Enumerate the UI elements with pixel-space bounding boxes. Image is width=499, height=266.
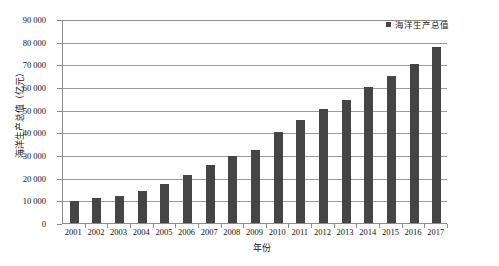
y-axis-tick-label: 80 000 <box>0 39 46 48</box>
bar-slot <box>380 20 403 223</box>
bar-2007[interactable] <box>206 165 215 223</box>
bar-2015[interactable] <box>387 76 396 223</box>
bar-2012[interactable] <box>319 109 328 223</box>
y-axis-tick-label: 30 000 <box>0 152 46 161</box>
x-axis-title: 年份 <box>0 241 499 254</box>
bar-slot <box>86 20 109 223</box>
y-axis-tick-label: 90 000 <box>0 16 46 25</box>
legend-square-marker-icon <box>386 22 391 27</box>
bar-slot <box>357 20 380 223</box>
bar-2017[interactable] <box>432 47 441 223</box>
bar-slot <box>312 20 335 223</box>
bar-2002[interactable] <box>92 198 101 223</box>
chart-legend: 海洋生产总值 <box>386 18 449 30</box>
bar-2011[interactable] <box>296 120 305 223</box>
bar-2008[interactable] <box>228 156 237 223</box>
x-axis-tick-label-2017: 2017 <box>420 228 452 237</box>
bar-slot <box>289 20 312 223</box>
bar-2005[interactable] <box>160 184 169 223</box>
bar-slot <box>131 20 154 223</box>
bar-slot <box>154 20 177 223</box>
ocean-gdp-bar-chart: 海洋生产总值（亿元） 90 00080 00070 00060 00050 00… <box>0 0 499 266</box>
y-axis-tick-label: 50 000 <box>0 107 46 116</box>
y-axis-tick-label: 20 000 <box>0 175 46 184</box>
plot-area <box>62 20 447 224</box>
bar-2013[interactable] <box>342 100 351 223</box>
bar-2004[interactable] <box>138 191 147 223</box>
bar-slot <box>176 20 199 223</box>
y-axis-tick-label: 40 000 <box>0 129 46 138</box>
y-axis-tick-label: 70 000 <box>0 61 46 70</box>
x-axis-title-text: 年份 <box>229 243 271 253</box>
legend-label-ocean-gdp: 海洋生产总值 <box>395 18 449 30</box>
bar-slot <box>403 20 426 223</box>
bar-2009[interactable] <box>251 150 260 223</box>
y-axis-tick-label: 10 000 <box>0 197 46 206</box>
y-axis-tick-label: 0 <box>0 220 46 229</box>
bar-slot <box>425 20 448 223</box>
bar-2006[interactable] <box>183 175 192 223</box>
bar-series <box>63 20 447 223</box>
bar-slot <box>267 20 290 223</box>
bar-2010[interactable] <box>274 132 283 223</box>
y-axis-tick-mark <box>57 224 62 225</box>
bar-2001[interactable] <box>70 201 79 223</box>
bar-2003[interactable] <box>115 196 124 223</box>
y-axis-tick-label: 60 000 <box>0 84 46 93</box>
bar-slot <box>108 20 131 223</box>
bar-slot <box>199 20 222 223</box>
x-axis-tick-mark <box>447 224 448 228</box>
bar-slot <box>222 20 245 223</box>
bar-2016[interactable] <box>410 64 419 223</box>
bar-slot <box>244 20 267 223</box>
bar-slot <box>63 20 86 223</box>
bar-slot <box>335 20 358 223</box>
bar-2014[interactable] <box>364 87 373 223</box>
